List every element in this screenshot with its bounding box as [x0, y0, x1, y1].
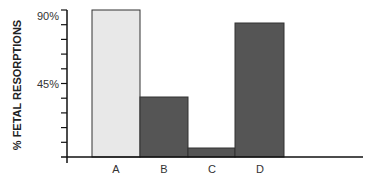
- x-category-label-c: C: [188, 163, 236, 175]
- x-category-label-d: D: [236, 163, 284, 175]
- bar-d: [235, 23, 284, 157]
- bar-a: [92, 10, 140, 157]
- bar-c: [188, 148, 235, 157]
- bar-b: [140, 97, 188, 157]
- bar-chart-plot: [0, 0, 385, 182]
- y-axis-ticks: [61, 10, 67, 142]
- x-category-label-b: B: [140, 163, 188, 175]
- x-category-label-a: A: [92, 163, 140, 175]
